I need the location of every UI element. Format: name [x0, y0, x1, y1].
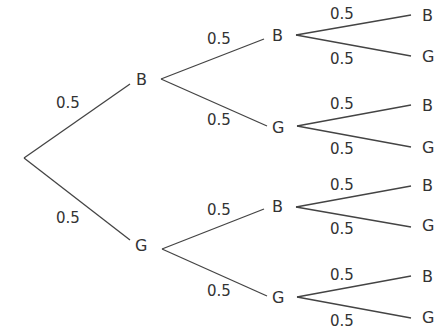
prob-label: 0.5 [207, 202, 231, 218]
node-b: B [422, 177, 433, 195]
node-g: G [422, 48, 434, 66]
prob-label: 0.5 [330, 177, 354, 193]
prob-label: 0.5 [330, 221, 354, 237]
prob-label: 0.5 [330, 51, 354, 67]
prob-label: 0.5 [56, 95, 80, 111]
prob-label: 0.5 [330, 141, 354, 157]
node-b: B [422, 7, 433, 25]
node-b: B [272, 198, 283, 216]
prob-label: 0.5 [330, 313, 354, 329]
prob-label: 0.5 [207, 283, 231, 299]
prob-label: 0.5 [330, 96, 354, 112]
prob-label: 0.5 [207, 31, 231, 47]
prob-label: 0.5 [330, 267, 354, 283]
node-g: G [135, 237, 147, 255]
node-g: G [422, 217, 434, 235]
node-b: B [136, 71, 147, 89]
node-b: B [422, 268, 433, 286]
node-g: G [422, 309, 434, 327]
prob-label: 0.5 [207, 112, 231, 128]
node-b: B [422, 97, 433, 115]
prob-label: 0.5 [330, 6, 354, 22]
node-g: G [422, 139, 434, 157]
node-g: G [272, 289, 284, 307]
node-b: B [272, 27, 283, 45]
prob-label: 0.5 [56, 210, 80, 226]
node-g: G [272, 119, 284, 137]
